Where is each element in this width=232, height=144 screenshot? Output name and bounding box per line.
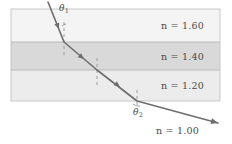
- theta2-symbol: θ: [133, 107, 139, 117]
- angle-label-theta2: θ2: [133, 107, 143, 117]
- theta1-symbol: θ: [59, 3, 65, 13]
- layer-label-n160: n = 1.60: [161, 20, 204, 31]
- angle-arc-theta2: [133, 104, 140, 106]
- angle-label-theta1: θ1: [59, 3, 69, 13]
- layer-label-n120: n = 1.20: [161, 80, 204, 91]
- theta1-subscript: 1: [65, 7, 69, 15]
- theta2-subscript: 2: [139, 111, 143, 119]
- layer-label-n140: n = 1.40: [161, 51, 204, 62]
- layer-label-n100: n = 1.00: [156, 125, 199, 136]
